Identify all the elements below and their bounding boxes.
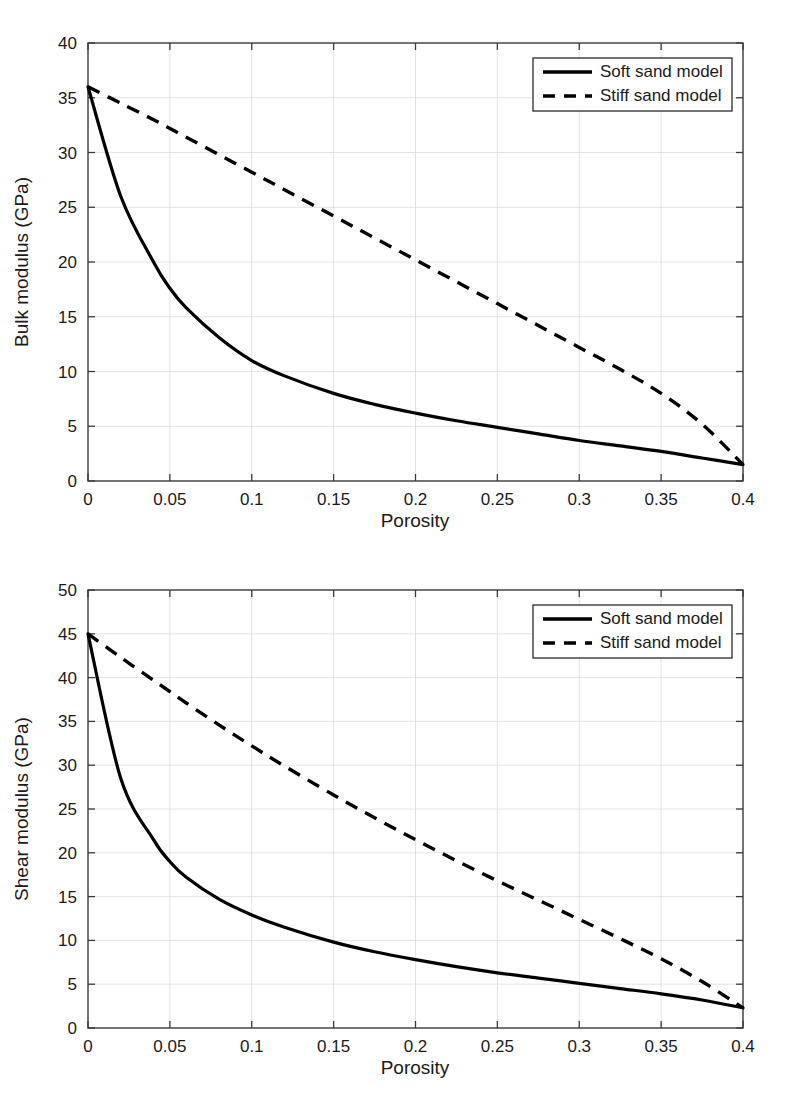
- chart-bulk-modulus: 00.050.10.150.20.250.30.350.4 0510152025…: [0, 0, 793, 547]
- bulk-y-tick-labels: 0510152025303540: [58, 34, 77, 491]
- shear-y-axis-title: Shear modulus (GPa): [11, 717, 32, 901]
- shear-y-tick-labels: 05101520253035404550: [58, 581, 77, 1038]
- bulk-y-tick-2: 10: [58, 363, 77, 382]
- shear-x-tick-6: 0.3: [567, 1037, 591, 1056]
- chart-shear-modulus: 00.050.10.150.20.250.30.350.4 0510152025…: [0, 547, 793, 1094]
- shear-x-tick-2: 0.1: [240, 1037, 264, 1056]
- bulk-y-tick-1: 5: [68, 417, 77, 436]
- shear-y-tick-10: 50: [58, 581, 77, 600]
- bulk-y-tick-7: 35: [58, 89, 77, 108]
- shear-y-tick-2: 10: [58, 931, 77, 950]
- shear-x-tick-labels: 00.050.10.150.20.250.30.350.4: [83, 1037, 755, 1056]
- bulk-legend: Soft sand model Stiff sand model: [533, 58, 732, 111]
- shear-x-axis-title: Porosity: [381, 1057, 450, 1078]
- bulk-x-tick-3: 0.15: [317, 490, 350, 509]
- bulk-x-tick-labels: 00.050.10.150.20.250.30.350.4: [83, 490, 755, 509]
- bulk-x-tick-8: 0.4: [731, 490, 755, 509]
- bulk-y-tick-0: 0: [68, 472, 77, 491]
- bulk-modulus-plot-svg: 00.050.10.150.20.250.30.350.4 0510152025…: [0, 0, 793, 547]
- bulk-x-tick-7: 0.35: [645, 490, 678, 509]
- shear-x-tick-3: 0.15: [317, 1037, 350, 1056]
- bulk-y-tick-8: 40: [58, 34, 77, 53]
- bulk-x-tick-4: 0.2: [404, 490, 428, 509]
- shear-y-tick-9: 45: [58, 625, 77, 644]
- shear-x-tick-0: 0: [83, 1037, 92, 1056]
- shear-y-tick-6: 30: [58, 756, 77, 775]
- bulk-y-tick-6: 30: [58, 144, 77, 163]
- shear-y-tick-5: 25: [58, 800, 77, 819]
- bulk-legend-label-soft: Soft sand model: [600, 62, 723, 81]
- shear-y-tick-7: 35: [58, 712, 77, 731]
- shear-modulus-plot-svg: 00.050.10.150.20.250.30.350.4 0510152025…: [0, 547, 793, 1094]
- bulk-y-axis-title: Bulk modulus (GPa): [11, 177, 32, 347]
- bulk-y-tick-4: 20: [58, 253, 77, 272]
- shear-x-tick-5: 0.25: [481, 1037, 514, 1056]
- shear-x-tick-7: 0.35: [645, 1037, 678, 1056]
- shear-y-tick-3: 15: [58, 888, 77, 907]
- bulk-legend-label-stiff: Stiff sand model: [600, 86, 722, 105]
- shear-legend-label-stiff: Stiff sand model: [600, 633, 722, 652]
- shear-y-tick-0: 0: [68, 1019, 77, 1038]
- bulk-x-tick-5: 0.25: [481, 490, 514, 509]
- bulk-x-tick-0: 0: [83, 490, 92, 509]
- shear-x-tick-1: 0.05: [153, 1037, 186, 1056]
- shear-y-tick-4: 20: [58, 844, 77, 863]
- shear-x-tick-4: 0.2: [404, 1037, 428, 1056]
- shear-y-tick-8: 40: [58, 669, 77, 688]
- bulk-x-tick-6: 0.3: [567, 490, 591, 509]
- bulk-y-tick-3: 15: [58, 308, 77, 327]
- shear-y-tick-1: 5: [68, 975, 77, 994]
- bulk-y-tick-5: 25: [58, 198, 77, 217]
- shear-x-tick-8: 0.4: [731, 1037, 755, 1056]
- bulk-x-tick-1: 0.05: [153, 490, 186, 509]
- shear-legend: Soft sand model Stiff sand model: [533, 605, 732, 658]
- shear-legend-label-soft: Soft sand model: [600, 609, 723, 628]
- bulk-x-axis-title: Porosity: [381, 510, 450, 531]
- bulk-x-tick-2: 0.1: [240, 490, 264, 509]
